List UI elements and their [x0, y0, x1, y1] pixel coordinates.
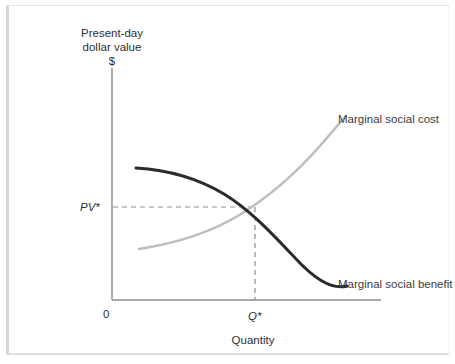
y-axis-title-line3: $ — [62, 54, 162, 68]
x-axis-title: Quantity — [198, 333, 308, 347]
origin-label: 0 — [103, 307, 109, 321]
marginal-social-cost-label: Marginal social cost — [338, 112, 439, 126]
y-axis-title-line2: dollar value — [62, 40, 162, 54]
marginal-social-benefit-label: Marginal social benefit — [338, 277, 452, 291]
y-axis-title-line1: Present-day — [62, 26, 162, 40]
q-star-tick-label: Q* — [248, 309, 261, 323]
pv-star-tick-label: PV* — [80, 200, 100, 214]
y-axis-title: Present-day dollar value $ — [62, 26, 162, 68]
marginal-social-cost-curve — [139, 117, 345, 249]
marginal-social-benefit-curve — [136, 168, 347, 287]
